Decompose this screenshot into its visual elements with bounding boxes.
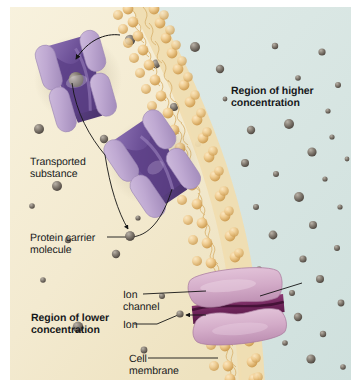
cell-membrane-transport-figure: Region of higher concentration Transport… (0, 0, 358, 392)
label-ion-channel: Ion channel (123, 290, 159, 313)
ion-particle (176, 310, 183, 317)
label-region-higher-concentration: Region of higher concentration (231, 86, 314, 110)
released-transported-substance (125, 231, 135, 241)
label-cell-membrane: Cell membrane (129, 354, 179, 377)
illustration-plate: Region of higher concentration Transport… (10, 7, 351, 380)
ion-channel-protein (187, 265, 288, 348)
label-ion: Ion (123, 320, 137, 332)
label-protein-carrier-molecule: Protein carrier molecule (30, 233, 95, 256)
label-region-lower-concentration: Region of lower concentration (31, 313, 109, 337)
label-transported-substance: Transported substance (30, 157, 86, 180)
